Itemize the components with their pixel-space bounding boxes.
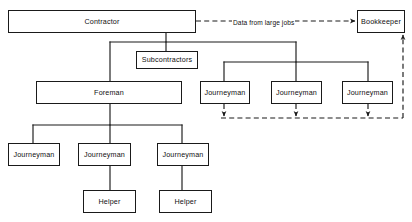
node-label: Helper <box>98 198 120 205</box>
node-journeyman-b3[interactable]: Journeyman <box>157 143 209 166</box>
node-bookkeeper[interactable]: Bookkeeper <box>357 10 405 33</box>
node-contractor[interactable]: Contractor <box>8 10 196 33</box>
node-journeyman-r1[interactable]: Journeyman <box>200 81 250 104</box>
node-label: Journeyman <box>347 89 388 96</box>
node-label: Journeyman <box>204 89 245 96</box>
node-label: Journeyman <box>84 151 125 158</box>
node-label: Journeyman <box>13 151 54 158</box>
solid-edge-group <box>33 33 368 190</box>
node-label: Helper <box>174 198 196 205</box>
node-label: Contractor <box>84 18 119 25</box>
node-helper-2[interactable]: Helper <box>159 190 212 213</box>
node-journeyman-r2[interactable]: Journeyman <box>271 81 322 104</box>
node-label: Foreman <box>94 89 124 96</box>
node-journeyman-b2[interactable]: Journeyman <box>78 143 131 166</box>
node-label: Journeyman <box>276 89 317 96</box>
connector-layer <box>0 0 412 222</box>
node-foreman[interactable]: Foreman <box>36 81 182 104</box>
node-journeyman-b1[interactable]: Journeyman <box>8 143 60 166</box>
node-helper-1[interactable]: Helper <box>83 190 136 213</box>
node-label: Bookkeeper <box>361 18 401 25</box>
org-chart-diagram: ContractorBookkeeperSubcontractorsForema… <box>0 0 412 222</box>
node-journeyman-r3[interactable]: Journeyman <box>342 81 393 104</box>
node-label: Subcontractors <box>142 56 192 63</box>
node-subcontractors[interactable]: Subcontractors <box>136 51 198 69</box>
edge-label-data-from-large-jobs: Data from large jobs <box>232 19 295 26</box>
node-label: Journeyman <box>162 151 203 158</box>
